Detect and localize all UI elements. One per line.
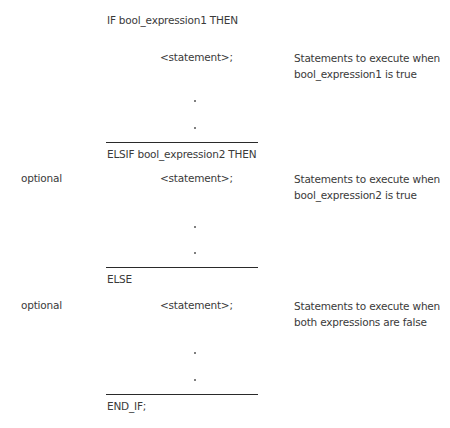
divider-elsif-else [106, 267, 258, 268]
else-header: ELSE [107, 273, 132, 286]
else-description: Statements to execute when both expressi… [294, 298, 440, 330]
divider-if-elsif [106, 142, 258, 143]
elsif-description-line2: bool_expression2 is true [294, 187, 440, 203]
if-statement: <statement>; [160, 51, 233, 64]
continuation-dot [194, 352, 196, 354]
endif-footer: END_IF; [107, 400, 146, 413]
if-description: Statements to execute when bool_expressi… [294, 50, 440, 82]
else-optional-label: optional [21, 299, 62, 312]
elsif-header: ELSIF bool_expression2 THEN [107, 148, 256, 161]
continuation-dot [194, 379, 196, 381]
elsif-description: Statements to execute when bool_expressi… [294, 171, 440, 203]
continuation-dot [194, 100, 196, 102]
elsif-optional-label: optional [21, 172, 62, 185]
if-header: IF bool_expression1 THEN [107, 14, 238, 27]
continuation-dot [194, 226, 196, 228]
divider-else-endif [106, 394, 258, 395]
elsif-statement: <statement>; [160, 172, 233, 185]
if-description-line1: Statements to execute when [294, 50, 440, 66]
else-statement: <statement>; [160, 299, 233, 312]
if-description-line2: bool_expression1 is true [294, 66, 440, 82]
continuation-dot [194, 127, 196, 129]
else-description-line1: Statements to execute when [294, 298, 440, 314]
elsif-description-line1: Statements to execute when [294, 171, 440, 187]
continuation-dot [194, 252, 196, 254]
else-description-line2: both expressions are false [294, 314, 440, 330]
